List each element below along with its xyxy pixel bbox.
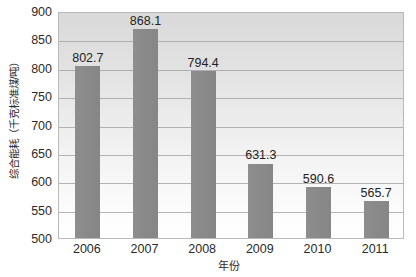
- bar-value-label: 802.7: [58, 52, 118, 65]
- x-axis-tick-label: 2009: [230, 242, 290, 256]
- y-axis-tick-label: 850: [14, 34, 52, 46]
- gridline: [59, 127, 403, 128]
- x-axis-tick-label: 2007: [115, 242, 175, 256]
- y-axis-tick-label: 700: [14, 120, 52, 132]
- y-axis-tick-label: 750: [14, 91, 52, 103]
- plot-area: 802.7868.1794.4631.3590.6565.7: [58, 12, 404, 239]
- x-axis-tick-label: 2010: [288, 242, 348, 256]
- bar[interactable]: [306, 187, 331, 238]
- bar-chart: 综合能耗（千克标准煤/吨） 90085080075070065060055050…: [0, 0, 416, 277]
- x-axis-tick-label: 2006: [57, 242, 117, 256]
- bar-value-label: 794.4: [173, 57, 233, 70]
- y-axis-tick-label: 550: [14, 205, 52, 217]
- bar-value-label: 868.1: [116, 15, 176, 28]
- bar[interactable]: [75, 66, 100, 238]
- bar[interactable]: [133, 29, 158, 238]
- y-axis-tick-label: 500: [14, 233, 52, 245]
- gridline: [59, 98, 403, 99]
- y-axis-tick-label: 600: [14, 176, 52, 188]
- gridline: [59, 183, 403, 184]
- y-axis-tick-labels: 900850800750700650600550500: [16, 12, 56, 239]
- x-axis-tick-label: 2008: [172, 242, 232, 256]
- bar[interactable]: [364, 201, 389, 238]
- bar-value-label: 565.7: [346, 187, 404, 200]
- gridline: [59, 212, 403, 213]
- y-axis-tick-label: 650: [14, 148, 52, 160]
- bar-value-label: 631.3: [231, 149, 291, 162]
- bar[interactable]: [248, 164, 273, 239]
- bar-value-label: 590.6: [289, 173, 349, 186]
- x-axis-tick-label: 2011: [345, 242, 405, 256]
- x-axis-title: 年份: [0, 259, 416, 273]
- bar[interactable]: [191, 71, 216, 238]
- y-axis-tick-label: 800: [14, 63, 52, 75]
- gridline: [59, 41, 403, 42]
- x-axis-tick-labels: 200620072008200920102011: [58, 242, 404, 258]
- y-axis-tick-label: 900: [14, 6, 52, 18]
